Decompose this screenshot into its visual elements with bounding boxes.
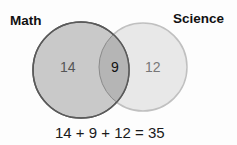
intersection-count: 9 [111, 59, 119, 75]
science-label: Science [173, 11, 225, 26]
math-only-count: 14 [60, 59, 76, 75]
venn-diagram: Math Science 14 9 12 14 + 9 + 12 = 35 [0, 0, 237, 145]
science-only-count: 12 [145, 59, 161, 75]
total-equation: 14 + 9 + 12 = 35 [55, 124, 165, 141]
math-label: Math [10, 13, 42, 28]
